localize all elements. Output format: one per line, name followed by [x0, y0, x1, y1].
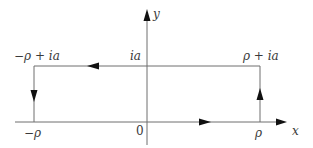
y-axis-arrow-icon: [144, 9, 151, 21]
x-axis-label: x: [292, 125, 299, 137]
vertex-label-bottom-left: −ρ: [24, 127, 41, 139]
right-edge-arrow-up-icon: [257, 88, 264, 100]
ia-label: ia: [130, 50, 141, 62]
left-edge-arrow-down-icon: [31, 90, 38, 102]
origin-label: 0: [136, 125, 144, 137]
contour-diagram: [0, 0, 313, 148]
y-axis-label: y: [153, 8, 160, 20]
bottom-edge-arrow-right-icon: [199, 119, 211, 126]
vertex-label-bottom-right: ρ: [255, 127, 262, 139]
top-edge-arrow-left-icon: [87, 63, 99, 70]
vertex-label-top-right: ρ + ia: [243, 50, 279, 62]
vertex-label-top-left: −ρ + ia: [14, 50, 60, 62]
x-axis-arrow-icon: [276, 119, 287, 126]
